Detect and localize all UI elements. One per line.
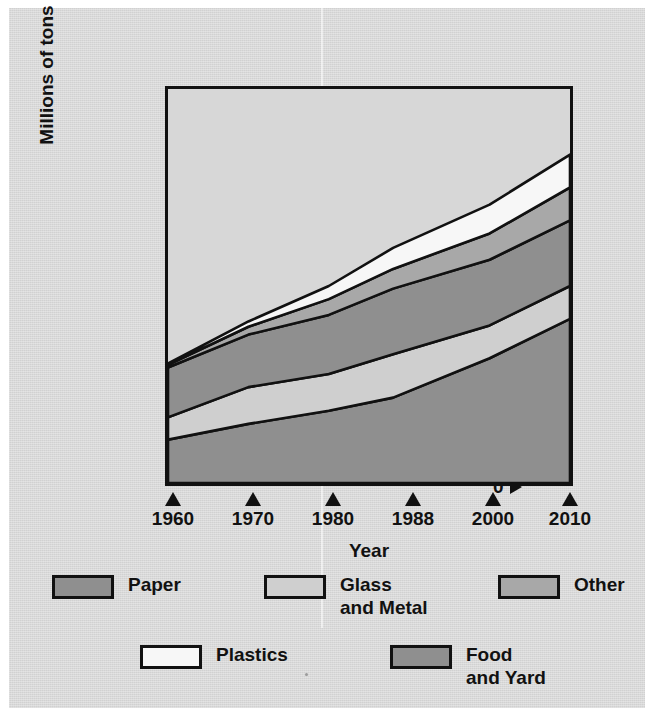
- legend-item-food-and-yard[interactable]: Food and Yard: [390, 643, 546, 689]
- x-axis-title: Year: [165, 540, 573, 562]
- arrow-up-icon: [562, 492, 578, 506]
- legend-label-paper: Paper: [128, 573, 181, 596]
- arrow-up-icon: [245, 492, 261, 506]
- legend-item-paper[interactable]: Paper: [52, 573, 181, 599]
- legend-swatch-food-and-yard: [390, 645, 452, 669]
- plot-area: [165, 86, 573, 486]
- x-tick-label: 1988: [373, 508, 453, 530]
- legend-item-plastics[interactable]: Plastics: [140, 643, 288, 669]
- x-tick-2010: 2010: [530, 492, 610, 530]
- legend-item-other[interactable]: Other: [498, 573, 625, 599]
- x-tick-1988: 1988: [373, 492, 453, 530]
- x-tick-label: 1970: [213, 508, 293, 530]
- x-tick-1980: 1980: [293, 492, 373, 530]
- arrow-up-icon: [485, 492, 501, 506]
- legend-label-food-and-yard: Food and Yard: [466, 643, 546, 689]
- arrow-up-icon: [165, 492, 181, 506]
- page-root: Millions of tons 300 250 200 150 100 50 …: [0, 0, 653, 714]
- x-tick-1960: 1960: [133, 492, 213, 530]
- y-axis-title: Millions of tons: [36, 0, 58, 180]
- legend-item-glass-and-metal[interactable]: Glass and Metal: [264, 573, 428, 619]
- x-tick-2000: 2000: [453, 492, 533, 530]
- x-tick-label: 1980: [293, 508, 373, 530]
- x-tick-1970: 1970: [213, 492, 293, 530]
- stacked-area-chart: [168, 89, 570, 483]
- legend-swatch-glass-and-metal: [264, 575, 326, 599]
- legend-label-other: Other: [574, 573, 625, 596]
- x-tick-label: 2010: [530, 508, 610, 530]
- x-tick-label: 2000: [453, 508, 533, 530]
- legend-swatch-plastics: [140, 645, 202, 669]
- legend-swatch-paper: [52, 575, 114, 599]
- arrow-up-icon: [405, 492, 421, 506]
- scan-speck: [305, 673, 308, 676]
- chart-legend: Paper Glass and Metal Other Plastics Foo…: [20, 565, 640, 695]
- arrow-up-icon: [325, 492, 341, 506]
- x-tick-label: 1960: [133, 508, 213, 530]
- legend-swatch-other: [498, 575, 560, 599]
- legend-label-plastics: Plastics: [216, 643, 288, 666]
- legend-label-glass-and-metal: Glass and Metal: [340, 573, 428, 619]
